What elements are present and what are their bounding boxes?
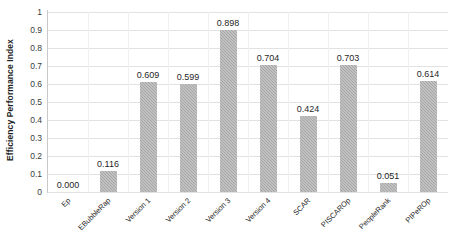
bar-value-label: 0.424	[297, 104, 320, 114]
y-axis-tick-label: 0.8	[30, 43, 42, 53]
x-axis-label-slot: PeopleRank	[368, 194, 408, 245]
x-axis-tick-label-text: Version 3	[204, 196, 232, 224]
y-axis-tick-label: 0.3	[30, 133, 42, 143]
bar-slot: 0.599	[168, 12, 208, 192]
y-axis-tick-label: 0.4	[30, 115, 42, 125]
y-axis-tick-label: 0.9	[30, 25, 42, 35]
bar-slot: 0.000	[48, 12, 88, 192]
bar-slot: 0.051	[368, 12, 408, 192]
x-axis-tick-label-text: SCAR	[291, 196, 312, 217]
y-axis-tick-label: 0.6	[30, 79, 42, 89]
x-axis-label-slot: Version 4	[248, 194, 288, 245]
x-axis-tick-label-text: Ep	[60, 196, 73, 209]
y-axis-title-text: Efficiency Performance Index	[5, 39, 15, 161]
y-axis-tick-label: 0.7	[30, 61, 42, 71]
x-axis-label-slot: EBubbleRap	[88, 194, 128, 245]
bar[interactable]	[260, 65, 277, 192]
y-axis-tick-label: 0.2	[30, 151, 42, 161]
x-axis-label-slot: PIPeROp	[408, 194, 448, 245]
bar[interactable]	[180, 84, 197, 192]
y-axis-tick-label: 0.5	[30, 97, 42, 107]
bar-slot: 0.614	[408, 12, 448, 192]
y-axis-tick-label: 1	[37, 7, 42, 17]
bar-slot: 0.704	[248, 12, 288, 192]
bar-value-label: 0.898	[217, 18, 240, 28]
bar-value-label: 0.614	[417, 69, 440, 79]
bar-value-label: 0.000	[57, 180, 80, 190]
bar-chart: Efficiency Performance Index 10.90.80.70…	[0, 0, 455, 245]
bar[interactable]	[220, 30, 237, 192]
x-axis-label-slot: Version 3	[208, 194, 248, 245]
bar-slot: 0.898	[208, 12, 248, 192]
bar-slot: 0.424	[288, 12, 328, 192]
y-axis-tick-labels: 10.90.80.70.60.50.40.30.20.10	[18, 12, 44, 192]
x-axis-tick-labels: EpEBubbleRapVersion 1Version 2Version 3V…	[48, 194, 448, 245]
bar-value-label: 0.703	[337, 53, 360, 63]
bar[interactable]	[420, 81, 437, 192]
x-axis-label-slot: Version 2	[168, 194, 208, 245]
bar[interactable]	[140, 82, 157, 192]
y-axis-tick-label: 0.1	[30, 169, 42, 179]
bar-slot: 0.116	[88, 12, 128, 192]
bar[interactable]	[340, 65, 357, 192]
x-axis-tick-label-text: Version 1	[124, 196, 152, 224]
bar-value-label: 0.051	[377, 171, 400, 181]
bar-slot: 0.703	[328, 12, 368, 192]
bar-value-label: 0.599	[177, 72, 200, 82]
bar-value-label: 0.609	[137, 70, 160, 80]
bar-series: 0.0000.1160.6090.5990.8980.7040.4240.703…	[48, 12, 448, 192]
x-axis-tick-label-text: PIPeROp	[404, 196, 433, 225]
bar-value-label: 0.116	[97, 159, 119, 169]
x-axis-tick-label-text: Version 2	[164, 196, 192, 224]
bar-value-label: 0.704	[257, 53, 280, 63]
y-axis-tick-label: 0	[37, 187, 42, 197]
bar-slot: 0.609	[128, 12, 168, 192]
x-axis-label-slot: Version 1	[128, 194, 168, 245]
plot-area: 0.0000.1160.6090.5990.8980.7040.4240.703…	[48, 12, 448, 192]
bar[interactable]	[300, 116, 317, 192]
y-axis-title: Efficiency Performance Index	[2, 0, 18, 200]
x-axis-tick-label-text: Version 4	[244, 196, 272, 224]
